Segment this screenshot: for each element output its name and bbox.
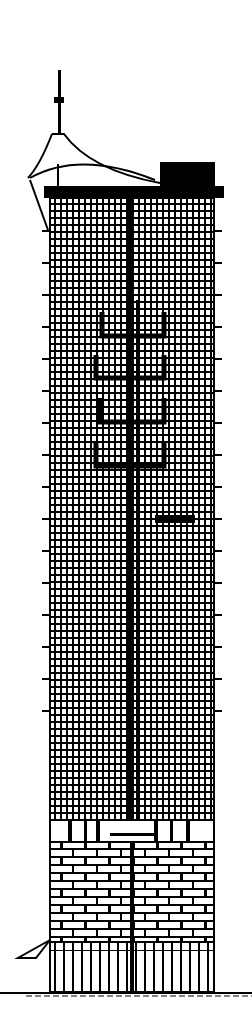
roof-garden: [44, 186, 224, 198]
elevation-drawing: [0, 0, 252, 1022]
entrance-canopy: [18, 940, 50, 958]
rooftop-plant: [160, 162, 215, 187]
tower-elevation: [0, 0, 252, 1022]
spire: [54, 70, 64, 134]
ground-line: [0, 992, 252, 994]
transfer-level: [50, 820, 214, 842]
